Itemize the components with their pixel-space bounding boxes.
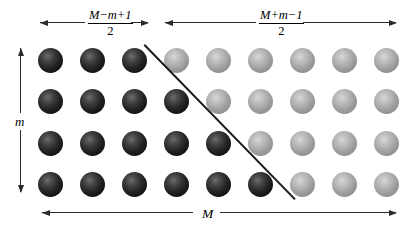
- sphere-dark-r3-c2: [80, 131, 105, 156]
- sphere-light-r1-c6: [248, 48, 273, 73]
- sphere-light-r1-c9: [374, 48, 399, 73]
- sphere-light-r4-c7: [290, 172, 315, 197]
- sphere-light-r2-c7: [290, 89, 315, 114]
- top-left-arrow-segment-right: [131, 22, 148, 23]
- sphere-dark-r2-c4: [164, 89, 189, 114]
- figure-canvas: M−m+1 2 M+m−1 2 m M: [0, 0, 414, 228]
- top-right-denominator: 2: [278, 24, 284, 38]
- sphere-dark-r4-c4: [164, 172, 189, 197]
- sphere-light-r2-c6: [248, 89, 273, 114]
- top-left-numerator: M−m+1: [88, 9, 133, 23]
- sphere-light-r2-c9: [374, 89, 399, 114]
- sphere-dark-r4-c1: [38, 172, 63, 197]
- sphere-dark-r1-c2: [80, 48, 105, 73]
- sphere-dark-r4-c2: [80, 172, 105, 197]
- sphere-light-r1-c7: [290, 48, 315, 73]
- sphere-light-r4-c9: [374, 172, 399, 197]
- sphere-dark-r3-c3: [122, 131, 147, 156]
- sphere-dark-r2-c3: [122, 89, 147, 114]
- sphere-dark-r4-c5: [206, 172, 231, 197]
- sphere-dark-r1-c3: [122, 48, 147, 73]
- bottom-arrow-segment-right: [220, 212, 396, 213]
- top-left-arrow-segment-left: [40, 22, 88, 23]
- sphere-light-r1-c8: [332, 48, 357, 73]
- sphere-light-r1-c5: [206, 48, 231, 73]
- top-right-numerator: M+m−1: [259, 9, 304, 23]
- sphere-dark-r2-c2: [80, 89, 105, 114]
- sphere-light-r2-c8: [332, 89, 357, 114]
- sphere-light-r3-c6: [248, 131, 273, 156]
- sphere-dark-r3-c1: [38, 131, 63, 156]
- top-left-dimension-label: M−m+1 2: [85, 9, 136, 37]
- sphere-light-r4-c8: [332, 172, 357, 197]
- sphere-dark-r3-c5: [206, 131, 231, 156]
- vertical-dimension-label: m: [13, 113, 26, 130]
- bottom-dimension-label: M: [198, 205, 217, 223]
- sphere-light-r3-c9: [374, 131, 399, 156]
- top-left-denominator: 2: [107, 24, 113, 38]
- sphere-dark-r4-c6: [248, 172, 273, 197]
- top-right-dimension-label: M+m−1 2: [256, 9, 307, 37]
- top-right-arrow-segment-left: [165, 22, 259, 23]
- bottom-arrow-segment-left: [42, 212, 193, 213]
- sphere-dark-r2-c1: [38, 89, 63, 114]
- sphere-light-r3-c7: [290, 131, 315, 156]
- sphere-dark-r1-c1: [38, 48, 63, 73]
- sphere-light-r3-c8: [332, 131, 357, 156]
- sphere-dark-r4-c3: [122, 172, 147, 197]
- sphere-dark-r3-c4: [164, 131, 189, 156]
- top-right-arrow-segment-right: [303, 22, 396, 23]
